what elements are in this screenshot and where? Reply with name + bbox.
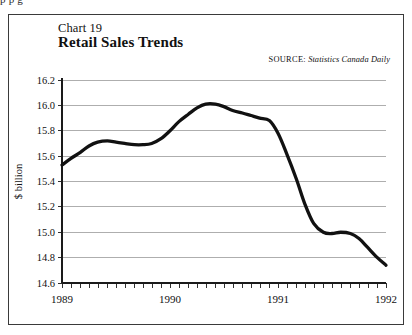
x-axis-tick-label: 1990 <box>159 293 182 305</box>
y-axis-tick-label: 15.4 <box>37 176 56 187</box>
x-axis-tick-label: 1991 <box>267 293 289 305</box>
gridlines-group <box>58 80 386 283</box>
y-axis-tick-label: 16.2 <box>37 75 55 86</box>
y-axis-title: $ billion <box>13 163 24 199</box>
y-axis-tick-label: 16.0 <box>37 100 55 111</box>
x-axis-tick-labels: 1989199019911992 <box>51 293 397 305</box>
y-axis-tick-label: 15.2 <box>37 201 55 212</box>
y-axis-tick-label: 15.8 <box>37 125 55 136</box>
y-axis-tick-label: 15.0 <box>37 227 55 238</box>
x-axis-tick-label: 1992 <box>375 293 397 305</box>
y-axis-tick-label: 15.6 <box>37 151 55 162</box>
y-axis-tick-label: 14.8 <box>37 252 55 263</box>
y-axis-tick-labels: 16.216.015.815.615.415.215.014.814.6 <box>37 75 56 289</box>
y-axis-tick-label: 14.6 <box>37 278 55 289</box>
x-axis-tick-label: 1989 <box>51 293 74 305</box>
line-chart-plot: 16.216.015.815.615.415.215.014.814.6 198… <box>0 0 412 335</box>
data-series-line <box>62 104 386 266</box>
